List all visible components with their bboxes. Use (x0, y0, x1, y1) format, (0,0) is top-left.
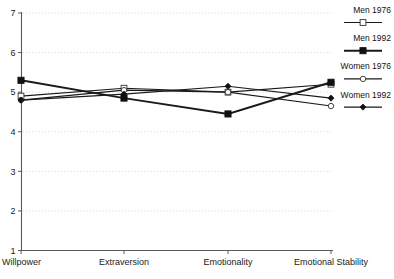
chart-canvas: 1234567 WillpowerExtraversionEmotionalit… (0, 0, 394, 279)
x-tick-label-1: Extraversion (99, 257, 149, 267)
legend-label-3: Women 1992 (341, 90, 392, 100)
x-tick-label-0: Willpower (2, 257, 41, 267)
line-chart: 1234567 WillpowerExtraversionEmotionalit… (0, 0, 394, 279)
legend-label-0: Men 1976 (353, 5, 391, 15)
legend-swatch-marker-0 (360, 20, 366, 26)
series-1-point-2 (225, 111, 231, 117)
y-tick-label-4: 4 (10, 127, 15, 137)
y-tick-label-5: 5 (10, 87, 15, 97)
y-tick-label-3: 3 (10, 167, 15, 177)
series-1-point-0 (18, 77, 24, 83)
series-1-point-3 (328, 79, 334, 85)
series-2-point-3 (328, 103, 333, 108)
y-tick-label-1: 1 (10, 246, 15, 256)
chart-background (0, 0, 394, 279)
series-2-point-2 (225, 89, 230, 94)
y-tick-label-7: 7 (10, 8, 15, 18)
legend-swatch-marker-1 (360, 48, 366, 54)
y-tick-label-6: 6 (10, 48, 15, 58)
legend-label-2: Women 1976 (341, 61, 392, 71)
legend-label-1: Men 1992 (353, 33, 391, 43)
x-tick-label-2: Emotionality (203, 257, 253, 267)
x-tick-label-3: Emotional Stability (294, 257, 369, 267)
legend-swatch-marker-2 (360, 76, 365, 81)
y-tick-label-2: 2 (10, 206, 15, 216)
